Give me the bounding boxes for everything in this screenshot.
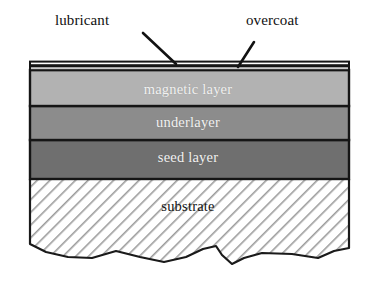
- layer-label-underlayer: underlayer: [0, 114, 376, 131]
- figure-root: lubricant overcoat magnetic layer underl…: [0, 0, 376, 281]
- layer-label-magnetic-layer: magnetic layer: [0, 81, 376, 98]
- callout-label-lubricant: lubricant: [55, 12, 109, 29]
- callout-label-overcoat: overcoat: [246, 12, 298, 29]
- layer-overcoat-film: [30, 66, 349, 70]
- media-stack-diagram: [0, 0, 376, 281]
- lubricant-leader-line: [143, 33, 176, 64]
- layer-label-seed-layer: seed layer: [0, 149, 376, 166]
- layer-substrate: [30, 179, 349, 271]
- layer-label-substrate: substrate: [0, 198, 376, 215]
- layer-lubricant-film: [30, 62, 349, 66]
